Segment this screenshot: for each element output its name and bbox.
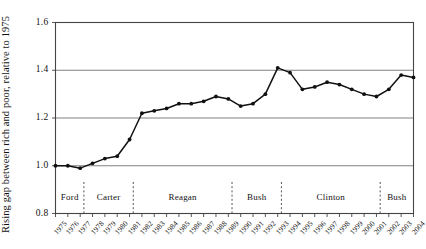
era-label: Reagan [133, 192, 232, 202]
y-tick-label: 1.2 [23, 112, 49, 122]
chart-container: Rising gap between rich and poor, relati… [0, 0, 426, 249]
era-label: Bush [380, 192, 413, 202]
gridlines [56, 23, 414, 214]
era-label: Clinton [281, 192, 380, 202]
era-label: Ford [56, 192, 84, 202]
line-chart-plot [0, 0, 426, 249]
era-label: Carter [84, 192, 133, 202]
y-tick-label: 1.0 [23, 160, 49, 170]
y-tick-label: 1.6 [23, 17, 49, 27]
y-tick-label: 1.4 [23, 64, 49, 74]
y-tick-label: 0.8 [23, 208, 49, 218]
era-label: Bush [232, 192, 281, 202]
